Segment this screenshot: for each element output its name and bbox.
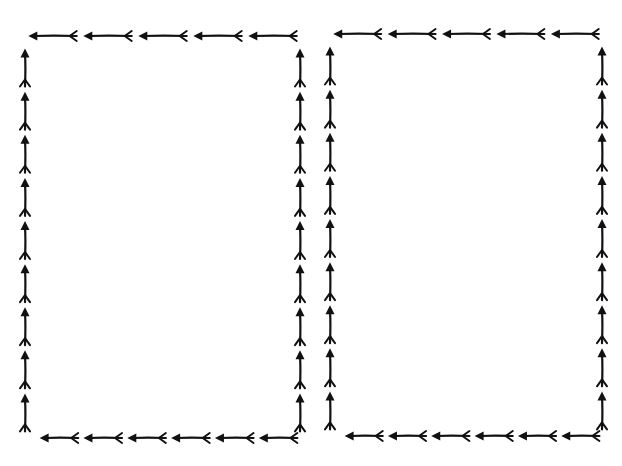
right-edge-arrow-icon [597, 47, 607, 85]
bottom-edge-arrow-icon [561, 431, 599, 441]
top-edge-arrow-icon [28, 31, 76, 41]
left-edge-arrow-icon [20, 92, 30, 130]
right-edge-arrow-icon [295, 350, 305, 388]
right-edge-arrow-icon [597, 305, 607, 343]
left-arrow-frame [20, 31, 305, 443]
left-edge-arrow-icon [20, 393, 30, 431]
right-edge-arrow-icon [597, 133, 607, 171]
bottom-edge-arrow-icon [171, 433, 210, 443]
bottom-edge-arrow-icon [259, 433, 298, 443]
right-edge-arrow-icon [597, 391, 607, 429]
left-edge-arrow-icon [325, 219, 335, 257]
left-edge-arrow-icon [20, 221, 30, 259]
right-edge-arrow-icon [295, 135, 305, 173]
right-edge-arrow-icon [295, 264, 305, 302]
left-edge-arrow-icon [325, 391, 335, 429]
top-edge-arrow-icon [83, 31, 131, 41]
right-edge-arrow-icon [295, 307, 305, 345]
top-edge-arrow-icon [193, 31, 241, 41]
left-edge-arrow-icon [20, 350, 30, 388]
right-edge-arrow-icon [597, 348, 607, 386]
right-arrow-frame [325, 29, 607, 441]
left-edge-arrow-icon [325, 47, 335, 85]
right-edge-arrow-icon [295, 221, 305, 259]
left-edge-arrow-icon [325, 305, 335, 343]
top-edge-arrow-icon [388, 29, 436, 39]
top-edge-arrow-icon [333, 29, 381, 39]
bottom-edge-arrow-icon [127, 433, 166, 443]
bottom-edge-arrow-icon [388, 431, 426, 441]
left-edge-arrow-icon [20, 178, 30, 216]
right-edge-arrow-icon [597, 90, 607, 128]
bottom-edge-arrow-icon [40, 433, 79, 443]
left-edge-arrow-icon [325, 348, 335, 386]
bottom-edge-arrow-icon [475, 431, 513, 441]
bottom-edge-arrow-icon [345, 431, 383, 441]
left-edge-arrow-icon [20, 49, 30, 87]
right-edge-arrow-icon [295, 393, 305, 431]
bottom-edge-arrow-icon [431, 431, 469, 441]
top-edge-arrow-icon [551, 29, 599, 39]
left-edge-arrow-icon [20, 135, 30, 173]
left-edge-arrow-icon [325, 176, 335, 214]
left-edge-arrow-icon [325, 262, 335, 300]
right-edge-arrow-icon [597, 176, 607, 214]
top-edge-arrow-icon [248, 31, 296, 41]
top-edge-arrow-icon [496, 29, 544, 39]
left-edge-arrow-icon [20, 264, 30, 302]
right-edge-arrow-icon [597, 262, 607, 300]
top-edge-arrow-icon [138, 31, 186, 41]
right-edge-arrow-icon [597, 219, 607, 257]
left-edge-arrow-icon [325, 90, 335, 128]
left-edge-arrow-icon [325, 133, 335, 171]
right-edge-arrow-icon [295, 49, 305, 87]
bottom-edge-arrow-icon [83, 433, 122, 443]
right-edge-arrow-icon [295, 178, 305, 216]
arrow-frames-canvas [0, 0, 622, 466]
left-edge-arrow-icon [20, 307, 30, 345]
top-edge-arrow-icon [442, 29, 490, 39]
right-edge-arrow-icon [295, 92, 305, 130]
bottom-edge-arrow-icon [518, 431, 556, 441]
bottom-edge-arrow-icon [215, 433, 254, 443]
